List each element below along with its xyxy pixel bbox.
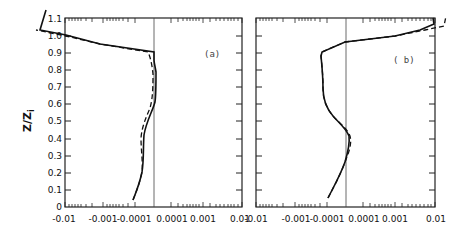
svg-text:0.01: 0.01 (426, 214, 446, 224)
panel-b-x-ticks (256, 18, 435, 207)
svg-text:0.2: 0.2 (48, 168, 62, 178)
panel-a-frame (65, 18, 242, 207)
panel-b-tag: ( b) (393, 55, 415, 65)
svg-text:-0.0001: -0.0001 (117, 214, 152, 224)
svg-text:1.1: 1.1 (48, 14, 62, 24)
panel-a: (a) (36, 10, 242, 207)
svg-text:0.1: 0.1 (48, 185, 62, 195)
svg-text:0.001: 0.001 (382, 214, 408, 224)
svg-text:-0.001: -0.001 (281, 214, 310, 224)
panel-b-x-tick-labels: -0.01 -0.001 -0.0001 0.0001 0.001 0.01 (244, 214, 446, 224)
svg-text:0.0001: 0.0001 (156, 214, 188, 224)
panel-a-x-tick-labels: -0.01 -0.001 -0.0001 0.0001 0.001 0.01 (52, 214, 250, 224)
panel-a-x-ticks (65, 18, 242, 207)
panel-b-frame (256, 18, 435, 207)
y-axis-label: Z/Zi (21, 109, 36, 132)
y-tick-labels: 0 0.1 0.2 0.3 0.4 0.5 0.6 0.7 0.8 0.9 1.… (48, 14, 63, 212)
svg-text:0.3: 0.3 (48, 151, 62, 161)
svg-text:0.4: 0.4 (48, 134, 63, 144)
svg-text:0: 0 (56, 202, 62, 212)
svg-text:0.001: 0.001 (190, 214, 216, 224)
panel-b: ( b) (256, 16, 446, 207)
svg-text:0.8: 0.8 (48, 65, 63, 75)
svg-text:0.0001: 0.0001 (348, 214, 380, 224)
profile-chart-figure: Z/Zi 0 0.1 0.2 0.3 0.4 0.5 0.6 0.7 0.8 0… (0, 0, 466, 236)
svg-text:-0.0001: -0.0001 (310, 214, 345, 224)
svg-text:-0.01: -0.01 (52, 214, 75, 224)
svg-text:0.5: 0.5 (48, 116, 62, 126)
panel-b-dashed-curve (321, 16, 446, 198)
svg-text:0.6: 0.6 (48, 99, 63, 109)
svg-text:0.7: 0.7 (48, 82, 62, 92)
svg-text:-0.001: -0.001 (88, 214, 117, 224)
panel-a-tag: (a) (204, 49, 220, 59)
svg-text:0.9: 0.9 (48, 48, 63, 58)
svg-text:-0.01: -0.01 (244, 214, 267, 224)
